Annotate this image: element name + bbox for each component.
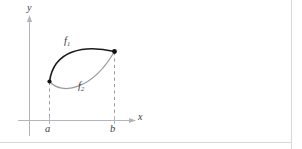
curve-f2-label: f2 bbox=[78, 81, 84, 93]
figure-container: y x a b f1 f2 bbox=[0, 0, 302, 149]
y-axis-label: y bbox=[27, 3, 31, 13]
curve-f1-label-subscript: 1 bbox=[67, 40, 70, 47]
x-axis-arrowhead bbox=[129, 118, 136, 123]
x-tick-label-a: a bbox=[45, 124, 50, 135]
endpoint-left-dot bbox=[47, 79, 51, 83]
endpoint-right-dot bbox=[112, 49, 117, 54]
x-tick-label-b: b bbox=[110, 124, 115, 135]
curve-f2-label-subscript: 2 bbox=[81, 85, 84, 92]
y-axis-arrowhead bbox=[27, 15, 32, 22]
x-axis-label: x bbox=[138, 112, 142, 122]
curve-f1-label: f1 bbox=[64, 36, 70, 48]
